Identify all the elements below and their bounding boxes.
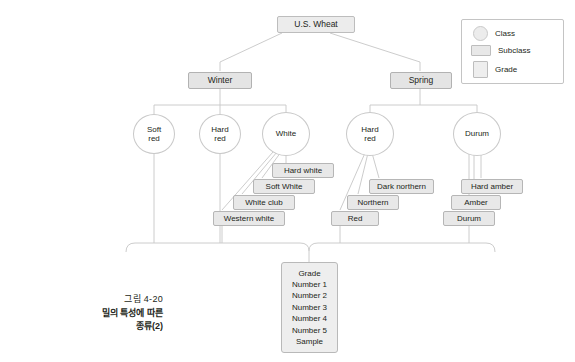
node-subclass-white-club[interactable]: White club bbox=[233, 195, 295, 210]
node-class-hard-red-spring-line1: Hard bbox=[361, 125, 378, 134]
node-subclass-white-club-label: White club bbox=[245, 198, 282, 207]
node-subclass-northern-label: Northern bbox=[357, 198, 388, 207]
tall-rectangle-swatch-icon bbox=[473, 61, 488, 78]
node-winter[interactable]: Winter bbox=[188, 72, 252, 89]
node-subclass-amber[interactable]: Amber bbox=[451, 195, 501, 210]
grade-item-1: Number 1 bbox=[292, 279, 327, 290]
node-grade-list[interactable]: Grade Number 1 Number 2 Number 3 Number … bbox=[281, 262, 338, 353]
node-subclass-northern[interactable]: Northern bbox=[347, 195, 399, 210]
node-spring-label: Spring bbox=[409, 76, 434, 86]
edge-hardredspring-darknorthern bbox=[372, 153, 379, 178]
figure-canvas: U.S. Wheat Winter Spring Soft red Hard r… bbox=[0, 0, 575, 362]
grade-item-5: Number 5 bbox=[292, 325, 327, 336]
grade-item-2: Number 2 bbox=[292, 290, 327, 301]
node-subclass-durum[interactable]: Durum bbox=[443, 211, 495, 226]
node-subclass-hard-amber[interactable]: Hard amber bbox=[461, 179, 523, 194]
node-class-white-line1: White bbox=[276, 129, 296, 138]
legend-panel: Class Subclass Grade bbox=[461, 19, 564, 84]
edge-root-spring bbox=[330, 33, 420, 71]
node-subclass-soft-white[interactable]: Soft White bbox=[253, 179, 315, 194]
node-class-hard-red-spring-line2: red bbox=[364, 134, 376, 143]
node-subclass-amber-label: Amber bbox=[464, 198, 488, 207]
legend-item-class: Class bbox=[473, 26, 515, 41]
node-subclass-western-white-label: Western white bbox=[224, 214, 275, 223]
node-subclass-western-white[interactable]: Western white bbox=[213, 211, 285, 226]
node-subclass-hard-amber-label: Hard amber bbox=[471, 182, 513, 191]
figure-caption: 그림 4-20 밀의 특성에 따른 종류(2) bbox=[20, 293, 163, 334]
grade-item-3: Number 3 bbox=[292, 302, 327, 313]
node-subclass-dark-northern-label: Dark northern bbox=[377, 182, 426, 191]
caption-title-line1: 밀의 특성에 따른 bbox=[20, 307, 163, 321]
node-class-soft-red-line2: red bbox=[148, 134, 160, 143]
legend-item-subclass: Subclass bbox=[471, 45, 530, 56]
circle-swatch-icon bbox=[473, 26, 488, 41]
node-subclass-red-label: Red bbox=[348, 214, 363, 223]
node-class-hard-red-winter-line2: red bbox=[214, 134, 226, 143]
node-winter-label: Winter bbox=[208, 76, 233, 86]
grade-brace bbox=[126, 243, 495, 252]
edge-hardredspring-northern bbox=[358, 153, 368, 194]
node-subclass-soft-white-label: Soft White bbox=[266, 182, 303, 191]
legend-item-class-label: Class bbox=[495, 29, 515, 38]
legend-item-subclass-label: Subclass bbox=[498, 46, 530, 55]
grade-item-0: Grade bbox=[298, 268, 320, 279]
node-class-soft-red-line1: Soft bbox=[147, 125, 161, 134]
node-class-white[interactable]: White bbox=[262, 112, 310, 156]
grade-item-6: Sample bbox=[296, 336, 323, 347]
node-subclass-dark-northern[interactable]: Dark northern bbox=[369, 179, 434, 194]
node-subclass-durum-label: Durum bbox=[457, 214, 481, 223]
node-class-soft-red[interactable]: Soft red bbox=[133, 114, 175, 154]
node-us-wheat-label: U.S. Wheat bbox=[294, 20, 337, 30]
node-subclass-red[interactable]: Red bbox=[331, 211, 379, 226]
legend-item-grade: Grade bbox=[473, 61, 517, 78]
node-class-hard-red-spring[interactable]: Hard red bbox=[346, 112, 394, 156]
caption-title-line2: 종류(2) bbox=[20, 320, 163, 334]
edge-root-winter bbox=[220, 33, 282, 71]
caption-figure-number: 그림 4-20 bbox=[20, 293, 163, 307]
wide-rectangle-swatch-icon bbox=[471, 45, 491, 56]
node-us-wheat[interactable]: U.S. Wheat bbox=[277, 16, 355, 33]
node-class-hard-red-winter-line1: Hard bbox=[211, 125, 228, 134]
node-subclass-hard-white-label: Hard white bbox=[284, 166, 322, 175]
node-spring[interactable]: Spring bbox=[390, 72, 452, 89]
legend-item-grade-label: Grade bbox=[495, 65, 517, 74]
node-class-durum[interactable]: Durum bbox=[453, 112, 501, 156]
node-class-hard-red-winter[interactable]: Hard red bbox=[199, 114, 241, 154]
node-class-durum-line1: Durum bbox=[465, 129, 489, 138]
grade-item-4: Number 4 bbox=[292, 313, 327, 324]
node-subclass-hard-white[interactable]: Hard white bbox=[272, 163, 334, 178]
